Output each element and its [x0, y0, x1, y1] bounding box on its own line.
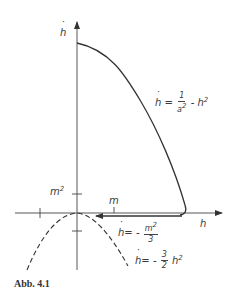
lower-parabola	[27, 213, 128, 270]
x-tick-label: m	[109, 196, 119, 206]
return-line-equation: h= - m23	[118, 222, 159, 244]
x-axis-label: h	[200, 219, 206, 229]
y-tick-label: m2	[50, 186, 64, 197]
y-axis-label: h	[60, 28, 66, 38]
phase-diagram	[0, 0, 237, 297]
figure-caption: Abb. 4.1	[14, 278, 50, 289]
lower-parabola-equation: h= - 32 h2	[135, 251, 183, 270]
upper-curve-equation: h = 1a2 - h2	[155, 92, 208, 114]
upper-curve	[77, 43, 186, 215]
